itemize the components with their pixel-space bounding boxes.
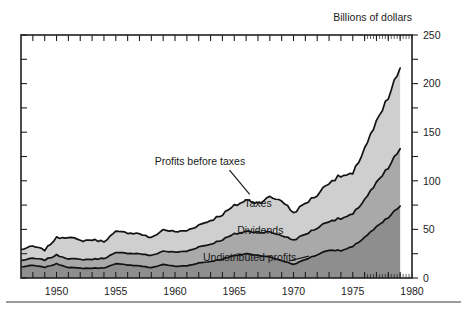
y-axis-tick-label: 150 (423, 126, 441, 138)
stacked-area-chart: Billions of dollars 050100150200250 1950… (0, 0, 467, 318)
y-axis-tick-label: 250 (423, 29, 441, 41)
chart-container: Billions of dollars 050100150200250 1950… (0, 0, 467, 318)
y-axis-tick-label: 100 (423, 175, 441, 187)
x-axis-tick-label: 1970 (282, 285, 306, 297)
x-axis-tick-label: 1950 (45, 285, 69, 297)
annotation-taxes: Taxes (244, 197, 271, 209)
x-axis-tick-label: 1955 (104, 285, 128, 297)
x-axis-tick-label: 1975 (341, 285, 365, 297)
unit-label: Billions of dollars (333, 11, 412, 23)
x-axis-tick-label: 1965 (223, 285, 247, 297)
annotation-profits-before-taxes: Profits before taxes (155, 155, 245, 167)
y-axis-tick-label: 0 (423, 272, 429, 284)
x-axis-tick-label: 1980 (400, 285, 424, 297)
y-axis-tick-label: 50 (423, 223, 435, 235)
y-axis-tick-label: 200 (423, 77, 441, 89)
x-axis-tick-label: 1960 (163, 285, 187, 297)
annotation-undistributed-profits: Undistributed profits (203, 251, 296, 263)
annotation-dividends: Dividends (237, 224, 283, 236)
